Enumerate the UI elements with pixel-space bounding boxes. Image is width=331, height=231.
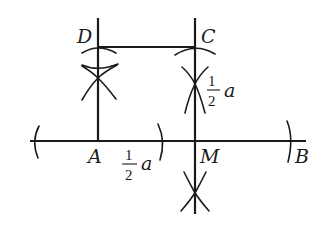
svg-text:2: 2 bbox=[125, 167, 133, 183]
label-A: A bbox=[86, 145, 102, 167]
svg-text:a: a bbox=[224, 79, 235, 101]
label-D: D bbox=[76, 25, 92, 47]
svg-text:a: a bbox=[141, 152, 152, 174]
svg-text:1: 1 bbox=[208, 73, 216, 89]
label-M: M bbox=[199, 145, 220, 167]
svg-text:2: 2 bbox=[208, 93, 216, 109]
label-half-a-vertical: 1 2 a bbox=[207, 73, 235, 109]
svg-text:1: 1 bbox=[125, 147, 133, 163]
label-C: C bbox=[201, 25, 216, 47]
geometric-construction-diagram: D C A M B 1 2 a 1 2 a bbox=[0, 0, 331, 231]
label-B: B bbox=[294, 145, 309, 167]
label-half-a-horizontal: 1 2 a bbox=[122, 147, 152, 183]
